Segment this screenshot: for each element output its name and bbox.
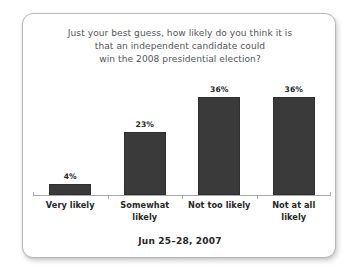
bar — [124, 132, 166, 195]
bar — [273, 97, 315, 195]
category-label: Not too likely — [182, 200, 257, 223]
bar-value-label: 36% — [210, 85, 228, 94]
x-axis-tick — [108, 195, 109, 199]
bar-value-label: 23% — [136, 120, 154, 129]
category-label: Somewhatlikely — [108, 200, 183, 223]
x-axis-tick — [182, 195, 183, 199]
x-axis-start-cap — [33, 192, 34, 196]
chart-page: Just your best guess, how likely do you … — [0, 0, 361, 276]
category-label-line: Not at all — [257, 200, 332, 212]
chart-plot-area: 4%23%36%36% — [33, 76, 331, 196]
x-axis-end-cap — [330, 192, 331, 196]
chart-title-line-3: win the 2008 presidential election? — [23, 53, 336, 66]
bar — [49, 184, 91, 195]
x-axis-tick — [257, 195, 258, 199]
bar-column: 36% — [182, 76, 257, 196]
bar-column: 4% — [33, 76, 108, 196]
category-label-line: Not too likely — [182, 200, 257, 212]
category-label: Not at alllikely — [257, 200, 332, 223]
x-axis-category-labels: Very likelySomewhatlikelyNot too likelyN… — [33, 200, 331, 223]
chart-title: Just your best guess, how likely do you … — [23, 27, 336, 67]
chart-footer-date: Jun 25–28, 2007 — [23, 236, 336, 246]
category-label-line: Very likely — [33, 200, 108, 212]
category-label-line: Somewhat — [108, 200, 183, 212]
bar-column: 23% — [108, 76, 183, 196]
bar-value-label: 4% — [64, 172, 77, 181]
category-label-line: likely — [257, 212, 332, 224]
chart-title-line-1: Just your best guess, how likely do you … — [23, 27, 336, 40]
category-label: Very likely — [33, 200, 108, 223]
chart-title-line-2: that an independent candidate could — [23, 40, 336, 53]
bar-column: 36% — [257, 76, 332, 196]
category-label-line: likely — [108, 212, 183, 224]
bar — [198, 97, 240, 195]
bar-value-label: 36% — [285, 85, 303, 94]
bar-series: 4%23%36%36% — [33, 76, 331, 196]
chart-card: Just your best guess, how likely do you … — [22, 13, 336, 258]
